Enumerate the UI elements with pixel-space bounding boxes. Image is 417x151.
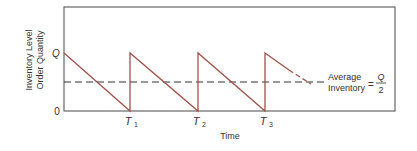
svg-text:Average: Average [328, 72, 361, 82]
svg-text:T: T [260, 115, 268, 127]
svg-text:Order Quantity: Order Quantity [35, 30, 45, 90]
svg-text:=: = [368, 79, 374, 90]
inventory-chart: Q 0 Inventory Level Order Quantity T 1 T… [0, 0, 417, 151]
svg-text:T: T [125, 115, 133, 127]
svg-text:1: 1 [134, 121, 138, 128]
svg-text:T: T [193, 115, 201, 127]
plot-frame [64, 7, 395, 111]
x-tick-t1: T 1 [125, 115, 138, 128]
y-tick-zero: 0 [54, 106, 60, 117]
y-axis-label: Inventory Level Order Quantity [24, 29, 45, 90]
average-inventory-annotation: Average Inventory = Q 2 [328, 72, 386, 95]
svg-text:Inventory: Inventory [328, 83, 366, 93]
y-tick-q: Q [52, 48, 60, 59]
svg-text:Inventory Level: Inventory Level [24, 29, 34, 90]
x-tick-t3: T 3 [260, 115, 273, 128]
x-axis-label: Time [220, 131, 240, 141]
svg-text:2: 2 [202, 121, 206, 128]
svg-text:3: 3 [269, 121, 273, 128]
x-tick-t2: T 2 [193, 115, 206, 128]
svg-text:Q: Q [377, 72, 384, 82]
svg-text:2: 2 [378, 85, 383, 95]
